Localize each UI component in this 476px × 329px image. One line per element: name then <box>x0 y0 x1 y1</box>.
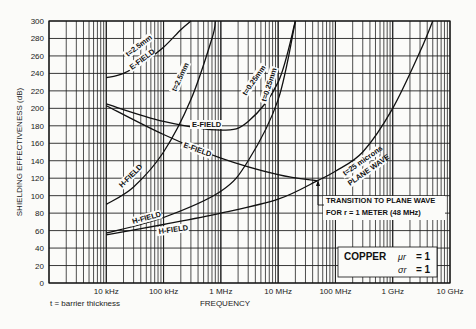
svg-text:40: 40 <box>35 244 44 253</box>
mu-symbol: μr <box>397 252 407 262</box>
svg-text:1 MHz: 1 MHz <box>209 287 232 296</box>
svg-text:100 kHz: 100 kHz <box>149 287 178 296</box>
sigma-value: = 1 <box>416 264 431 275</box>
svg-text:10 GHz: 10 GHz <box>436 287 463 296</box>
svg-text:0: 0 <box>40 279 45 288</box>
svg-text:240: 240 <box>31 69 45 78</box>
svg-text:160: 160 <box>31 139 45 148</box>
sigma-symbol: σr <box>398 265 407 275</box>
grid <box>49 21 450 283</box>
svg-text:10 MHz: 10 MHz <box>264 287 292 296</box>
svg-text:80: 80 <box>35 209 44 218</box>
x-axis-label: FREQUENCY <box>200 299 251 308</box>
svg-text:10 kHz: 10 kHz <box>94 287 119 296</box>
svg-text:300: 300 <box>31 17 45 26</box>
y-axis-label: SHIELDING EFFECTIVENESS (dB) <box>15 87 24 216</box>
svg-text:1 GHz: 1 GHz <box>381 287 404 296</box>
svg-text:100 MHz: 100 MHz <box>319 287 351 296</box>
x-axis-ticks: 10 kHz100 kHz1 MHz10 MHz100 MHz1 GHz10 G… <box>94 287 464 296</box>
svg-text:220: 220 <box>31 87 45 96</box>
svg-text:140: 140 <box>31 157 45 166</box>
svg-text:180: 180 <box>31 122 45 131</box>
svg-text:260: 260 <box>31 52 45 61</box>
mu-value: = 1 <box>416 251 431 262</box>
shielding-chart: 0204060801001201401601802002202402602803… <box>0 0 476 329</box>
svg-text:200: 200 <box>31 104 45 113</box>
y-axis-ticks: 0204060801001201401601802002202402602803… <box>31 17 45 288</box>
svg-text:120: 120 <box>31 174 45 183</box>
svg-text:280: 280 <box>31 34 45 43</box>
label-efield-0.25: E-FIELD <box>192 120 222 129</box>
svg-text:100: 100 <box>31 192 45 201</box>
footnote: t = barrier thickness <box>50 299 120 308</box>
material-name: COPPER <box>344 251 387 262</box>
material-box: COPPER μr = 1 σr = 1 <box>338 247 437 277</box>
svg-text:60: 60 <box>35 227 44 236</box>
label-t-2.5mm-h: t=2.5mm <box>170 61 191 93</box>
annotation-line1: TRANSITION TO PLANE WAVE <box>326 196 435 205</box>
svg-text:20: 20 <box>35 262 44 271</box>
annotation-line2: FOR r = 1 METER (48 MHz) <box>326 208 421 217</box>
